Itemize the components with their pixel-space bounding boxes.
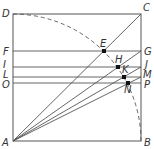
label-e: E [100,38,107,49]
label-p: P [144,79,151,90]
label-a: A [1,137,9,148]
label-g: G [144,46,152,57]
label-f: F [3,46,9,57]
label-b: B [144,137,151,148]
point-k [122,75,126,79]
ray-ac [13,14,141,141]
label-n: N [124,84,132,95]
label-d: D [2,8,10,19]
label-o: O [2,79,10,90]
label-k: K [122,64,130,75]
ray-am [13,77,141,141]
geometry-diagram: D C A B F I L O G J M P E H K N [0,0,154,149]
point-e [102,49,106,53]
label-c: C [143,2,150,13]
point-h [116,65,120,69]
